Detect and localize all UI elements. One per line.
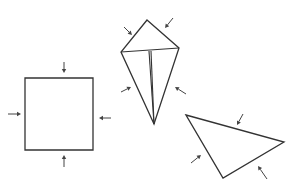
diagram-svg [0, 0, 297, 191]
arrow-icon [121, 87, 131, 92]
origami-diagram [0, 0, 297, 191]
arrow-icon [62, 62, 66, 73]
arrow-icon [124, 27, 132, 35]
square-figure [8, 62, 111, 167]
arrow-icon [165, 18, 173, 28]
arrow-icon [175, 87, 186, 94]
triangle-outline [186, 115, 284, 178]
arrow-icon [258, 166, 267, 179]
arrow-icon [62, 155, 66, 167]
arrow-icon [99, 116, 111, 120]
triangle-figure [186, 114, 284, 179]
arrow-icon [191, 155, 201, 163]
arrow-icon [8, 112, 21, 116]
arrow-icon [237, 114, 243, 125]
square-outline [25, 78, 93, 150]
fold-crease [121, 48, 179, 52]
kite-figure [121, 18, 186, 124]
